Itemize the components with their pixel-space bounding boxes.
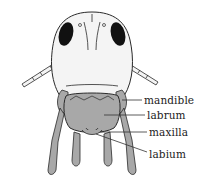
label-labrum: labrum <box>147 110 186 121</box>
labrum <box>64 93 120 133</box>
maxilla-center <box>82 130 102 135</box>
labial-palp-left <box>72 132 80 166</box>
label-labium: labium <box>149 149 186 160</box>
label-maxilla: maxilla <box>149 127 188 138</box>
maxillary-palp-left <box>48 108 64 175</box>
label-mandible: mandible <box>144 95 194 106</box>
maxillary-palp-right <box>120 108 136 175</box>
